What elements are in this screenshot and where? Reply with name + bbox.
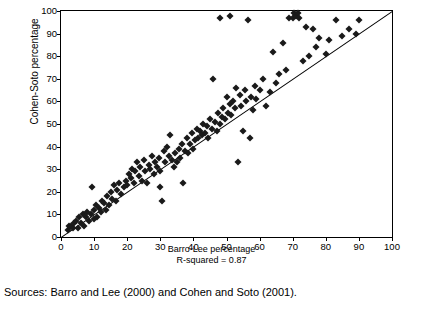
scatter-point	[246, 134, 253, 141]
scatter-point	[210, 75, 217, 82]
y-tick-mark	[57, 56, 61, 57]
y-tick-mark	[57, 192, 61, 193]
scatter-point	[249, 107, 256, 114]
scatter-point	[223, 93, 230, 100]
y-tick-mark	[57, 101, 61, 102]
x-tick-mark	[326, 237, 327, 241]
y-axis-label: Cohen-Soto percentage	[29, 2, 40, 142]
x-tick-mark	[160, 237, 161, 241]
scatter-point	[216, 14, 223, 21]
scatter-point	[276, 71, 283, 78]
y-tick-mark	[57, 34, 61, 35]
x-axis-label: Barro-Lee percentage	[0, 244, 423, 254]
x-tick-mark	[392, 237, 393, 241]
scatter-point	[157, 184, 164, 191]
scatter-point	[180, 179, 187, 186]
y-tick-label: 20	[27, 187, 57, 197]
scatter-point	[157, 168, 164, 175]
scatter-point	[259, 75, 266, 82]
scatter-point	[279, 39, 286, 46]
scatter-point	[233, 84, 240, 91]
scatter-point	[339, 32, 346, 39]
scatter-point	[355, 16, 362, 23]
y-tick-label: 30	[27, 164, 57, 174]
x-tick-mark	[293, 237, 294, 241]
y-tick-label: 10	[27, 210, 57, 220]
plot-area: 0102030405060708090100010203040506070809…	[60, 10, 393, 238]
scatter-point	[226, 12, 233, 19]
x-tick-mark	[94, 237, 95, 241]
scatter-point	[283, 66, 290, 73]
figure-root: 0102030405060708090100010203040506070809…	[0, 0, 423, 315]
y-tick-label: 0	[27, 232, 57, 242]
sources-caption: Sources: Barro and Lee (2000) and Cohen …	[4, 286, 297, 298]
x-tick-mark	[193, 237, 194, 241]
y-tick-mark	[57, 147, 61, 148]
y-tick-mark	[57, 79, 61, 80]
scatter-point	[236, 91, 243, 98]
scatter-point	[158, 197, 165, 204]
scatter-chart: 0102030405060708090100010203040506070809…	[0, 4, 423, 266]
scatter-point	[316, 35, 323, 42]
x-tick-mark	[359, 237, 360, 241]
y-tick-mark	[57, 214, 61, 215]
scatter-point	[326, 37, 333, 44]
scatter-point	[256, 87, 263, 94]
scatter-point	[244, 16, 251, 23]
scatter-point	[81, 222, 88, 229]
scatter-point	[312, 44, 319, 51]
scatter-point	[345, 26, 352, 33]
r-squared-annotation: R-squared = 0.87	[0, 255, 423, 265]
scatter-point	[235, 159, 242, 166]
y-tick-mark	[57, 169, 61, 170]
y-tick-mark	[57, 124, 61, 125]
scatter-point	[302, 23, 309, 30]
scatter-point	[240, 127, 247, 134]
scatter-point	[241, 87, 248, 94]
x-tick-mark	[127, 237, 128, 241]
scatter-point	[309, 26, 316, 33]
scatter-point	[89, 184, 96, 191]
scatter-point	[190, 145, 197, 152]
scatter-point	[269, 48, 276, 55]
scatter-point	[144, 179, 151, 186]
scatter-point	[299, 57, 306, 64]
scatter-point	[167, 132, 174, 139]
y-tick-mark	[57, 11, 61, 12]
y-tick-label: 40	[27, 142, 57, 152]
x-tick-mark	[260, 237, 261, 241]
scatter-point	[263, 102, 270, 109]
scatter-point	[332, 16, 339, 23]
scatter-point	[273, 80, 280, 87]
x-tick-mark	[227, 237, 228, 241]
scatter-point	[306, 53, 313, 60]
scatter-point	[238, 102, 245, 109]
scatter-point	[296, 14, 303, 21]
